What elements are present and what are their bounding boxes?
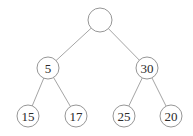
tree-node-5: 5 [37, 57, 59, 79]
node-label: 25 [118, 109, 131, 124]
tree-node-30: 30 [136, 57, 158, 79]
node-label: 20 [165, 109, 178, 124]
tree-node-15: 15 [17, 105, 39, 127]
binary-tree-diagram: 5 30 15 17 25 20 [0, 0, 193, 136]
tree-node-25: 25 [113, 105, 135, 127]
nodes: 5 30 15 17 25 20 [17, 8, 182, 127]
tree-node-17: 17 [65, 105, 87, 127]
node-label: 17 [70, 109, 84, 124]
tree-node-20: 20 [160, 105, 182, 127]
node-label: 30 [141, 61, 154, 76]
node-label: 5 [45, 61, 52, 76]
tree-node-root [88, 8, 112, 32]
node-label: 15 [22, 109, 35, 124]
